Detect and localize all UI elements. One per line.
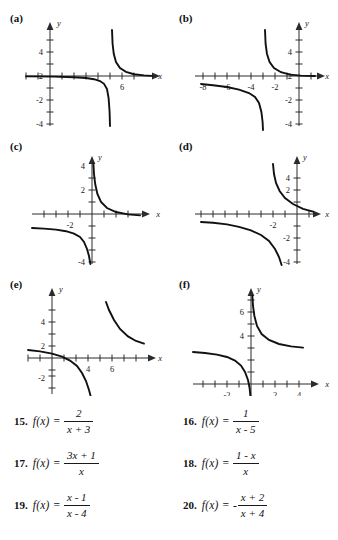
- y-tick-label: -4: [283, 257, 291, 266]
- exercise-item-19[interactable]: 19. f(x) = x - 1 x - 4: [14, 488, 90, 522]
- x-axis-arrow: [148, 355, 156, 362]
- y-axis-arrow: [47, 22, 54, 30]
- y-axis-label: y: [97, 152, 102, 162]
- exercise-number: 19.: [14, 499, 28, 511]
- graph-panel-b: (b) x y: [169, 4, 338, 132]
- x-tick-label: -2: [269, 220, 276, 230]
- negative-sign: -: [233, 499, 237, 511]
- x-tick-label: 6: [110, 364, 114, 374]
- y-tick-label: 4: [240, 331, 245, 341]
- x-axis-label: x: [324, 71, 329, 81]
- exercise-item-18[interactable]: 18. f(x) = 1 - x x: [183, 446, 259, 480]
- exercise-column-right: 16. f(x) = 1 x - 5 18. f(x) = 1 - x x 20…: [169, 398, 338, 540]
- y-tick-label: -2: [36, 95, 43, 105]
- graph-plot-c: x y: [26, 140, 162, 266]
- fraction-bar: [238, 505, 267, 506]
- equals-sign: =: [54, 415, 61, 427]
- fraction-denominator: x: [76, 465, 87, 477]
- y-tick-label: 2: [81, 185, 85, 195]
- y-tick-label: 6: [240, 307, 244, 317]
- fraction-denominator: x + 4: [238, 507, 267, 519]
- equals-sign: =: [223, 415, 230, 427]
- y-axis-arrow: [294, 156, 301, 164]
- fraction: 1 - x x: [233, 449, 259, 477]
- fraction-numerator: 2: [73, 407, 85, 419]
- graph-label-a: (a): [10, 12, 23, 24]
- graph-panel-e: (e) x y: [0, 270, 169, 396]
- x-axis-label: x: [157, 353, 162, 363]
- graph-plot-a: x y: [24, 14, 164, 132]
- graph-plot-f: x y: [187, 280, 331, 396]
- function-notation: f(x): [33, 499, 50, 511]
- fraction-numerator: x - 1: [64, 491, 90, 503]
- curve-branch-right: [112, 30, 152, 76]
- equals-sign: =: [54, 457, 61, 469]
- x-tick-label: 6: [120, 82, 124, 92]
- function-notation: f(x): [202, 415, 219, 427]
- graph-panel-a: (a) x y: [0, 4, 169, 132]
- curve-branch-right: [106, 302, 144, 344]
- exercise-column-left: 15. f(x) = 2 x + 3 17. f(x) = 3x + 1 x 1…: [0, 398, 169, 540]
- y-axis-arrow: [296, 22, 303, 30]
- x-axis-label: x: [324, 209, 329, 219]
- y-tick-label: 2: [286, 185, 290, 195]
- y-tick-label: 2: [288, 71, 292, 81]
- graph-panel-d: (d) x y: [169, 134, 338, 268]
- graph-grid: (a) x y: [0, 0, 338, 396]
- y-axis-label: y: [58, 284, 63, 294]
- y-tick-label: 4: [41, 317, 46, 327]
- y-axis-label: y: [302, 152, 307, 162]
- fraction-denominator: x: [240, 465, 251, 477]
- function-notation: f(x): [33, 415, 50, 427]
- exercise-item-15[interactable]: 15. f(x) = 2 x + 3: [14, 404, 93, 438]
- fraction-bar: [233, 463, 259, 464]
- fraction-denominator: x - 4: [64, 507, 90, 519]
- y-tick-label: 4: [39, 47, 44, 57]
- curve-branch-right: [93, 164, 140, 215]
- y-axis-label: y: [56, 18, 61, 28]
- function-notation: f(x): [202, 499, 219, 511]
- equals-sign: =: [223, 499, 230, 511]
- x-axis-label: x: [324, 379, 329, 389]
- x-tick-label: 4: [297, 390, 302, 396]
- x-tick-label: -2: [66, 220, 73, 230]
- graph-label-e: (e): [10, 278, 22, 290]
- fraction-bar: [64, 421, 93, 422]
- x-tick-label: -4: [247, 82, 255, 92]
- exercise-number: 20.: [183, 499, 197, 511]
- x-axis-arrow: [317, 73, 325, 80]
- equals-sign: =: [54, 499, 61, 511]
- exercise-item-16[interactable]: 16. f(x) = 1 x - 5: [183, 404, 259, 438]
- fraction-denominator: x - 5: [233, 423, 259, 435]
- exercise-number: 16.: [183, 415, 197, 427]
- equals-sign: =: [223, 457, 230, 469]
- x-axis-arrow: [311, 381, 319, 388]
- curve-branch-right: [273, 164, 313, 212]
- fraction-numerator: 1 - x: [233, 449, 259, 461]
- exercise-item-20[interactable]: 20. f(x) = - x + 2 x + 4: [183, 488, 267, 522]
- exercise-item-17[interactable]: 17. f(x) = 3x + 1 x: [14, 446, 99, 480]
- y-tick-label: -4: [78, 257, 86, 266]
- y-tick-label: -2: [38, 373, 45, 383]
- graph-plot-b: x y: [187, 14, 331, 132]
- graph-panel-c: (c) x y: [0, 134, 169, 268]
- fraction-denominator: x + 3: [64, 423, 93, 435]
- y-tick-label: 4: [81, 161, 86, 171]
- fraction-numerator: 3x + 1: [64, 449, 99, 461]
- y-axis-arrow: [49, 288, 56, 296]
- x-tick-label: 2: [273, 390, 277, 396]
- x-axis-label: x: [157, 71, 162, 81]
- y-axis-label: y: [256, 284, 261, 294]
- y-tick-label: -2: [283, 233, 290, 243]
- fraction-numerator: x + 2: [238, 491, 267, 503]
- fraction: 2 x + 3: [64, 407, 93, 435]
- y-tick-label: -4: [36, 119, 44, 129]
- exercise-number: 15.: [14, 415, 28, 427]
- graph-plot-e: x y: [24, 280, 164, 396]
- y-tick-label: -4: [285, 119, 293, 129]
- y-axis-label: y: [304, 18, 309, 28]
- x-tick-label: 4: [86, 364, 91, 374]
- graph-panel-f: (f) x y: [169, 270, 338, 396]
- curve-branch-left: [193, 352, 250, 396]
- graph-plot-d: x y: [187, 140, 331, 266]
